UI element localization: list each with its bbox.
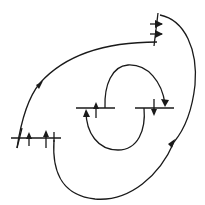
top-right-vertical [154,13,158,46]
curve-outer-bottom [54,140,174,199]
inner-bottom-arrow-icon [83,109,90,117]
segments-group [11,13,174,148]
center-right-down-arrow-icon [151,109,157,116]
center-left-up-arrow-icon [93,102,99,109]
curve-inner-top [105,65,165,108]
top-right-arrow-1-icon [155,20,163,28]
curves-group [17,15,195,199]
curve-inner-bottom [86,108,144,150]
left-arrow-2-icon [43,130,49,137]
top-right-arrow-2-icon [155,30,163,38]
curve-outer-right [160,15,195,142]
left-arrow-1-icon [26,132,32,139]
inner-top-arrow-icon [161,99,169,107]
arrowheads-group [26,20,175,148]
curve-outer-upper [17,42,157,148]
orbit-diagram [0,0,205,205]
